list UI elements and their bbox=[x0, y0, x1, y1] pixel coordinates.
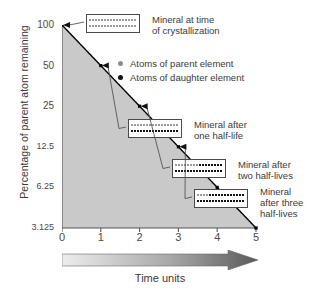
leader-arrows bbox=[0, 0, 334, 292]
radioactive-decay-figure: Percentage of parent atom remaining 100 … bbox=[0, 0, 334, 292]
x-axis-title: Time units bbox=[62, 272, 258, 284]
time-direction-arrow bbox=[62, 250, 258, 270]
